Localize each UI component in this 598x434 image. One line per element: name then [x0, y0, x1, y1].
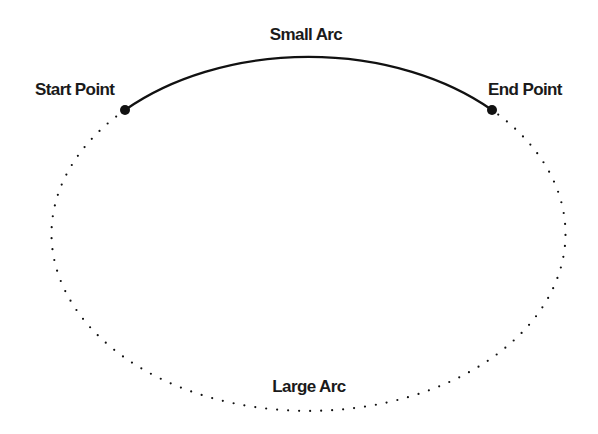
- end-point-label: End Point: [488, 80, 563, 99]
- small-arc-label: Small Arc: [270, 25, 343, 44]
- large-arc-label: Large Arc: [272, 377, 345, 396]
- large-arc-dotted: [52, 110, 566, 411]
- start-point-label: Start Point: [35, 80, 115, 99]
- start-point-marker: [120, 105, 130, 115]
- arc-diagram: Small Arc Start Point End Point Large Ar…: [0, 0, 598, 434]
- small-arc-solid: [125, 57, 492, 110]
- end-point-marker: [487, 105, 497, 115]
